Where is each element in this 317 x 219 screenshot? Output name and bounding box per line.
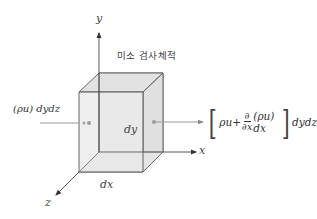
cube (79, 73, 163, 172)
inflow-arrow (40, 121, 91, 125)
outflow-term-2: (ρu) dx (253, 110, 279, 134)
outflow-dot (152, 120, 156, 124)
control-volume-label: 미소 검사체적 (117, 51, 176, 61)
inflow-dot (82, 121, 85, 124)
dy-label: dy (124, 124, 137, 135)
inflow-label: (ρu) dydz (13, 104, 60, 114)
z-axis (56, 172, 79, 195)
fraction-denominator: ∂x (242, 122, 252, 133)
outflow-suffix: dydz (292, 116, 317, 128)
outflow-term-1: ρu+ (219, 116, 241, 128)
x-axis-label: x (199, 145, 205, 156)
close-bracket: ] (281, 105, 289, 139)
y-axis-label: y (96, 13, 102, 24)
outflow-formula: [ ρu+ ∂ ∂x (ρu) dx ] dydz (206, 103, 317, 141)
dx-label: dx (100, 179, 113, 190)
inflow-dot (87, 121, 91, 125)
partial-derivative-fraction: ∂ ∂x (242, 111, 252, 133)
z-axis-label: z (45, 197, 51, 208)
open-bracket: [ (209, 105, 217, 139)
